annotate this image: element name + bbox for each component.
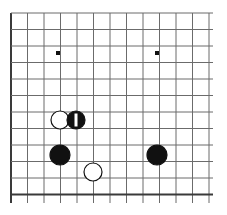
white-stone-icon <box>84 163 102 181</box>
star-point-left-icon <box>56 51 60 55</box>
go-board-diagram <box>0 0 227 215</box>
black-stone-move-1[interactable] <box>67 111 85 129</box>
white-stone-lower[interactable] <box>84 163 102 181</box>
black-stone-lower-left[interactable] <box>50 145 70 165</box>
go-board-canvas[interactable] <box>0 0 227 215</box>
star-point-right-icon <box>155 51 159 55</box>
white-stone-upper[interactable] <box>51 111 69 129</box>
black-stone-icon <box>50 145 70 165</box>
black-stone-icon <box>147 145 167 165</box>
black-stone-right[interactable] <box>147 145 167 165</box>
move-number-marker-icon <box>75 114 78 127</box>
white-stone-icon <box>51 111 69 129</box>
